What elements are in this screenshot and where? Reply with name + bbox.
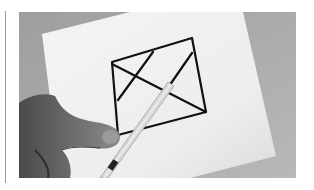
photo-illustration <box>19 12 296 178</box>
photo-scissors-cutting-paper <box>19 12 296 178</box>
left-vertical-rule <box>5 11 6 183</box>
